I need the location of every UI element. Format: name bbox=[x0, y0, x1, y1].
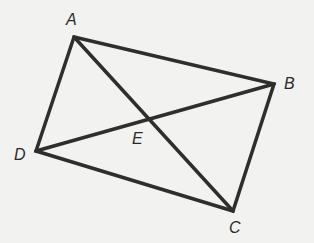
label-c: C bbox=[229, 219, 241, 236]
diagram-canvas: A B C D E bbox=[0, 0, 314, 243]
diagonal-ac bbox=[74, 37, 233, 211]
label-e: E bbox=[132, 130, 143, 147]
diagonal-db bbox=[36, 84, 274, 151]
label-a: A bbox=[65, 11, 77, 28]
label-b: B bbox=[284, 75, 295, 92]
label-d: D bbox=[14, 146, 26, 163]
